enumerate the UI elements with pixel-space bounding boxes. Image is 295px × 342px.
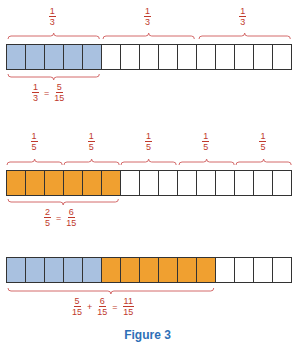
third-label: 13: [49, 6, 56, 27]
cell: [159, 171, 178, 195]
denominator: 15: [66, 218, 76, 228]
cell: [159, 258, 178, 282]
cell: [178, 258, 197, 282]
cell: [45, 171, 64, 195]
cell: [216, 45, 235, 69]
numerator: 2: [44, 207, 51, 218]
numerator: 1: [49, 6, 56, 17]
cell: [102, 258, 121, 282]
fraction: 615: [97, 296, 107, 317]
fraction: 13: [32, 82, 39, 103]
one-third-brace: [8, 73, 99, 81]
denominator: 3: [240, 17, 245, 27]
cell: [102, 171, 121, 195]
third-label: 13: [239, 6, 246, 27]
cell: [159, 45, 178, 69]
third-brace: [8, 32, 99, 40]
numerator: 11: [123, 296, 134, 307]
numerator: 6: [99, 296, 106, 307]
fifth-brace: [179, 158, 234, 166]
numerator: 5: [74, 296, 81, 307]
denominator: 15: [97, 307, 107, 317]
denominator: 3: [50, 17, 55, 27]
denominator: 3: [145, 17, 150, 27]
cell: [121, 171, 140, 195]
cell: [254, 258, 273, 282]
cell: [273, 171, 291, 195]
cell: [235, 171, 254, 195]
cell: [178, 45, 197, 69]
numerator: 1: [259, 131, 266, 142]
cell: [216, 171, 235, 195]
figure-caption: Figure 3: [0, 328, 295, 342]
denominator: 5: [203, 142, 208, 152]
numerator: 1: [88, 131, 95, 142]
operator: =: [56, 213, 61, 223]
fifth-brace: [64, 158, 119, 166]
cell: [178, 171, 197, 195]
fraction: 1115: [123, 296, 134, 317]
fifth-label: 15: [145, 131, 152, 152]
cell: [26, 45, 45, 69]
fifth-brace: [121, 158, 176, 166]
fifth-brace: [236, 158, 291, 166]
fraction: 25: [44, 207, 51, 228]
denominator: 5: [89, 142, 94, 152]
cell: [45, 258, 64, 282]
cell: [273, 258, 291, 282]
bar1-strip: [6, 44, 292, 70]
cell: [64, 258, 83, 282]
cell: [26, 171, 45, 195]
cell: [254, 171, 273, 195]
cell: [7, 45, 26, 69]
fifth-label: 15: [202, 131, 209, 152]
fifth-label: 15: [31, 131, 38, 152]
cell: [273, 45, 291, 69]
numerator: 1: [202, 131, 209, 142]
cell: [26, 258, 45, 282]
equation-two-fifths: 25=615: [44, 207, 76, 228]
bar2-strip: [6, 170, 292, 196]
numerator: 1: [31, 131, 38, 142]
cell: [140, 171, 159, 195]
numerator: 6: [68, 207, 75, 218]
third-brace: [103, 32, 194, 40]
cell: [83, 171, 102, 195]
fraction: 615: [66, 207, 76, 228]
two-fifths-brace: [8, 198, 118, 206]
cell: [197, 45, 216, 69]
cell: [254, 45, 273, 69]
cell: [216, 258, 235, 282]
denominator: 5: [45, 218, 50, 228]
equation-sum: 515+615=1115: [72, 296, 134, 317]
numerator: 1: [145, 131, 152, 142]
cell: [83, 45, 102, 69]
cell: [140, 258, 159, 282]
numerator: 1: [239, 6, 246, 17]
cell: [64, 45, 83, 69]
cell: [7, 171, 26, 195]
cell: [102, 45, 121, 69]
denominator: 3: [33, 93, 38, 103]
third-label: 13: [144, 6, 151, 27]
cell: [121, 45, 140, 69]
operator: =: [112, 302, 117, 312]
sum-brace: [8, 287, 214, 295]
cell: [7, 258, 26, 282]
cell: [235, 258, 254, 282]
cell: [45, 45, 64, 69]
cell: [235, 45, 254, 69]
operator: +: [87, 302, 92, 312]
denominator: 15: [54, 93, 64, 103]
cell: [64, 171, 83, 195]
numerator: 1: [32, 82, 39, 93]
cell: [121, 258, 140, 282]
bar3-strip: [6, 257, 292, 283]
cell: [197, 258, 216, 282]
denominator: 5: [260, 142, 265, 152]
fifth-label: 15: [259, 131, 266, 152]
cell: [140, 45, 159, 69]
fifth-brace: [7, 158, 62, 166]
numerator: 1: [144, 6, 151, 17]
fraction: 515: [54, 82, 64, 103]
